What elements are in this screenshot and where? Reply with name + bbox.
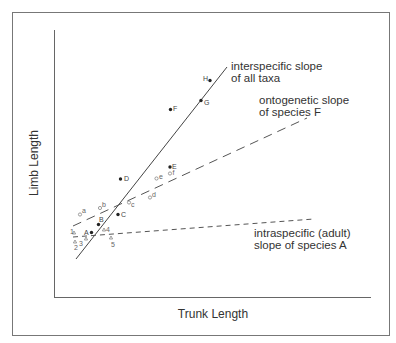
svg-text:D: D (124, 175, 129, 182)
ontogenetic-slope-line (73, 118, 307, 226)
svg-text:5: 5 (111, 241, 115, 248)
allometry-diagram: Trunk Length Limb Length interspecific s… (0, 0, 396, 343)
svg-text:a: a (82, 207, 86, 214)
ontogenetic-slope-label: ontogenetic slope of species F (259, 94, 349, 118)
interspecific-slope-line (76, 67, 227, 259)
taxon-point-d-upper: D (119, 175, 129, 182)
interspecific-slope-label: interspecific slope of all taxa (231, 60, 322, 84)
ontogenetic-point-f: f (168, 169, 174, 176)
svg-text:2: 2 (74, 244, 78, 251)
svg-text:4: 4 (106, 226, 110, 233)
ontogenetic-point-e: e (155, 173, 163, 180)
taxon-point-a-upper: A (84, 229, 93, 236)
intraspecific-point-2: 2 (73, 240, 78, 251)
y-axis-label: Limb Length (27, 130, 41, 196)
svg-text:G: G (204, 99, 209, 106)
svg-text:3: 3 (79, 240, 83, 247)
svg-text:of all taxa: of all taxa (231, 72, 281, 84)
svg-text:slope of species A: slope of species A (254, 239, 347, 251)
svg-text:H: H (203, 75, 208, 82)
svg-text:1: 1 (70, 228, 74, 235)
ontogenetic-point-a: a (78, 207, 86, 216)
svg-text:A: A (84, 229, 89, 236)
svg-text:F: F (173, 105, 177, 112)
taxon-point-g-upper: G (199, 99, 209, 106)
svg-text:of species F: of species F (259, 106, 321, 118)
svg-text:b: b (102, 201, 106, 208)
ontogenetic-point-b: b (98, 201, 106, 210)
taxon-point-h-upper: H (203, 75, 212, 82)
intraspecific-point-1: 1 (70, 228, 76, 235)
svg-text:e: e (159, 173, 163, 180)
intraspecific-slope-label: intraspecific (adult) slope of species A (254, 227, 351, 251)
ontogenetic-point-c: c (127, 201, 135, 208)
svg-text:d: d (152, 191, 156, 198)
svg-text:c: c (131, 201, 135, 208)
intraspecific-point-5: 5 (109, 236, 115, 248)
taxon-point-f-upper: F (169, 105, 177, 112)
svg-text:f: f (173, 169, 175, 176)
svg-text:B: B (99, 216, 104, 223)
figure-frame (13, 13, 390, 336)
x-axis-label: Trunk Length (178, 307, 248, 321)
svg-text:ontogenetic slope: ontogenetic slope (259, 94, 349, 106)
svg-text:intraspecific (adult): intraspecific (adult) (254, 227, 351, 239)
taxon-point-c-upper: C (116, 211, 126, 218)
svg-text:C: C (121, 211, 126, 218)
intraspecific-point-4: 4 (102, 226, 110, 233)
svg-text:interspecific slope: interspecific slope (231, 60, 322, 72)
ontogenetic-point-d: d (148, 191, 156, 199)
